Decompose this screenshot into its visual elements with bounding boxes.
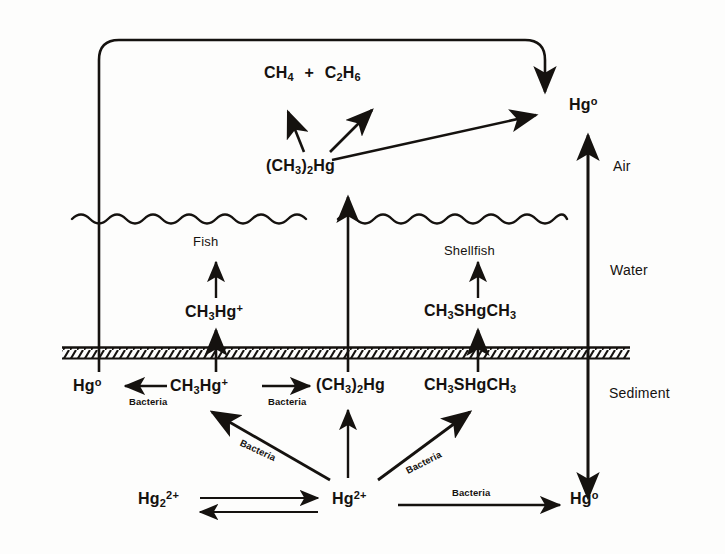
methane-symbol: CH [264,64,288,81]
species-dimethylsulfide-sediment: CH3SHgCH3 [424,376,516,395]
mercury-vapor-bottom-symbol: Hg [570,490,592,507]
organism-label-fish: Fish [193,234,218,249]
organism-label-shellfish: Shellfish [444,243,495,258]
species-methylmercury-sediment: CH3Hg+ [170,376,228,396]
water-surface-line [72,215,567,224]
dimethylmercury-sediment-open: (CH [316,376,345,393]
methylmercury-sediment-hg: Hg [200,377,222,394]
zone-label-water: Water [610,262,648,278]
ethane-h: H [343,64,355,81]
mercury-recycle-loop-arrow [99,40,545,372]
methylation-to-methylmercury-arrow [212,412,330,480]
zone-label-air: Air [613,158,631,174]
species-mercuric: Hg2+ [332,489,367,508]
mercurous-charge: 2+ [166,489,179,501]
process-label-bacteria-reduction: Bacteria [129,396,167,407]
species-mercury-vapor-bottom: Hgo [570,489,599,508]
species-dimethylmercury-sediment: (CH3)2Hg [316,376,385,395]
figure-canvas: CH4 + C2H6 (CH3)2Hg Hgo Air Water Sedime… [0,0,725,554]
dimethylsulfide-water-c: CH [424,302,448,319]
mercury-vapor-air-symbol: Hg [569,96,591,113]
zone-label-sediment: Sediment [609,385,670,401]
methylation-to-dimethylsulfide-arrow [378,412,470,480]
ethane-h-subscript: 6 [355,71,361,83]
species-mercury-vapor-sediment: Hgo [73,376,102,395]
methane-subscript: 4 [288,71,294,83]
dimethylsulfide-sediment-mid: SHgCH [454,376,510,393]
sediment-boundary-line [62,348,630,359]
photolysis-ethane-arrow [330,110,372,152]
dimethylsulfide-sediment-c: CH [424,376,448,393]
plus-sign: + [299,64,321,81]
methylmercury-water-c: CH [185,303,209,320]
methylmercury-water-charge: + [237,302,244,314]
methylmercury-sediment-charge: + [222,376,229,388]
process-label-bacteria-reduction-2: Bacteria [452,487,490,498]
methylmercury-sediment-c: CH [170,377,194,394]
mercury-vapor-air-charge: o [591,95,598,107]
mercurous-mercuric-equilibrium-arrows [200,498,318,512]
species-methane-ethane: CH4 + C2H6 [264,64,361,83]
dimethylsulfide-water-sub2: 3 [510,309,516,321]
dimethylmercury-air-open: (CH [266,157,295,174]
species-mercury-vapor-air: Hgo [569,95,598,114]
dimethylmercury-air-hg: Hg [313,157,335,174]
mercurous-symbol: Hg [138,490,160,507]
mercury-vapor-bottom-charge: o [592,489,599,501]
dimethylsulfide-water-mid: SHgCH [454,302,510,319]
mercury-vapor-sediment-charge: o [95,376,102,388]
dimethylmercury-sediment-hg: Hg [363,376,385,393]
species-dimethylsulfide-water: CH3SHgCH3 [424,302,516,321]
ethane-c: C [325,64,337,81]
species-methylmercury-water: CH3Hg+ [185,302,243,322]
dimethylmercury-to-mercury-vapor-arrow [332,115,536,160]
species-dimethylmercury-air: (CH3)2Hg [266,157,335,176]
mercury-vapor-sediment-symbol: Hg [73,377,95,394]
species-mercurous: Hg22+ [138,489,179,509]
dimethylsulfide-sediment-sub2: 3 [510,383,516,395]
photolysis-methane-arrow [288,112,304,152]
methylmercury-water-hg: Hg [215,303,237,320]
mercuric-charge: 2+ [354,489,367,501]
mercuric-symbol: Hg [332,490,354,507]
process-label-bacteria-methylation-1: Bacteria [268,396,306,407]
